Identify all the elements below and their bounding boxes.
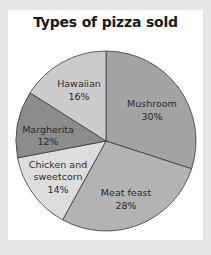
svg-text:14%: 14%	[47, 184, 68, 195]
svg-text:Hawaiian: Hawaiian	[57, 78, 101, 89]
svg-text:16%: 16%	[68, 91, 89, 102]
pie-chart: Mushroom 30% Meat feast 28% Chicken and …	[0, 0, 211, 255]
svg-text:Mushroom: Mushroom	[127, 98, 177, 109]
svg-text:Chicken and: Chicken and	[29, 159, 87, 170]
svg-text:30%: 30%	[141, 111, 162, 122]
svg-text:sweetcorn: sweetcorn	[34, 171, 83, 182]
svg-text:28%: 28%	[115, 200, 136, 211]
svg-text:Margherita: Margherita	[22, 124, 74, 135]
svg-text:12%: 12%	[37, 136, 58, 147]
svg-text:Meat feast: Meat feast	[101, 187, 152, 198]
